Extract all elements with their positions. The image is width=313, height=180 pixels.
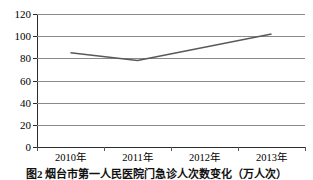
y-tick-label: 40 bbox=[20, 97, 31, 108]
y-tick-label: 100 bbox=[15, 31, 32, 42]
x-tick-labels: 2010年2011年2012年2013年 bbox=[37, 151, 305, 165]
y-tick-label: 60 bbox=[20, 75, 31, 86]
y-tick-label: 0 bbox=[26, 142, 32, 153]
x-tick bbox=[305, 147, 306, 151]
series-line bbox=[37, 14, 305, 147]
x-tick-label: 2010年 bbox=[37, 151, 104, 165]
figure-caption: 图2 烟台市第一人民医院门急诊人次数变化（万人次） bbox=[0, 167, 313, 180]
y-tick-label: 20 bbox=[20, 119, 31, 130]
y-tick-label: 80 bbox=[20, 53, 31, 64]
x-axis: 2010年2011年2012年2013年 bbox=[37, 147, 305, 166]
line-chart: 020406080100120 2010年2011年2012年2013年 bbox=[0, 0, 313, 166]
series-polyline bbox=[71, 34, 272, 61]
plot-area: 020406080100120 bbox=[37, 14, 305, 147]
x-tick-label: 2012年 bbox=[171, 151, 238, 165]
y-tick-label: 120 bbox=[15, 9, 32, 20]
x-tick-label: 2011年 bbox=[104, 151, 171, 165]
figure-container: 020406080100120 2010年2011年2012年2013年 图2 … bbox=[0, 0, 313, 180]
x-tick-label: 2013年 bbox=[238, 151, 305, 165]
